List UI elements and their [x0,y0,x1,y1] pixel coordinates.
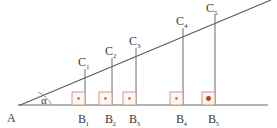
point-label-c4-sub: 4 [184,22,188,30]
point-label-c4: C [176,14,184,28]
right-angle-dot-4 [175,97,178,100]
angle-label-alpha: α [41,94,47,106]
geometry-figure: A α B 1 B 2 B 3 B 4 B 5 C 1 C 2 C 3 C 4 … [0,0,277,127]
point-label-b2-sub: 2 [113,120,117,128]
right-angle-dot-1 [77,97,80,100]
point-label-b5-sub: 5 [216,120,220,128]
point-label-c5: C [206,1,214,15]
point-label-c1: C [78,55,86,69]
figure-canvas: A α B 1 B 2 B 3 B 4 B 5 C 1 C 2 C 3 C 4 … [0,0,277,127]
right-angle-dot-5 [206,96,211,101]
point-label-c3: C [129,34,137,48]
vertex-label-a: A [7,111,16,125]
point-label-b4-sub: 4 [184,120,188,128]
right-angle-dot-3 [128,97,131,100]
point-label-c1-sub: 1 [86,63,90,71]
hypotenuse-ray [19,0,271,106]
point-label-c2: C [105,44,113,58]
point-label-c2-sub: 2 [113,52,117,60]
right-angle-dot-2 [104,97,107,100]
point-label-c5-sub: 5 [214,9,218,17]
point-label-b3-sub: 3 [137,120,141,128]
point-label-b1-sub: 1 [86,120,90,128]
point-label-c3-sub: 3 [137,42,141,50]
